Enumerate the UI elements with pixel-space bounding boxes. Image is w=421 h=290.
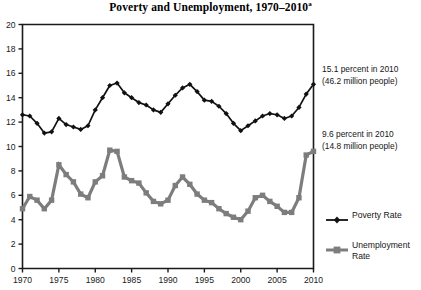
data-point-marker [274,204,279,209]
data-point-marker [224,211,229,216]
legend-label-poverty-rate: Poverty Rate [348,210,402,221]
chart-legend: Poverty Rate Unemployment Rate [326,210,421,278]
x-tick-label: 1990 [158,275,177,285]
data-point-marker [194,191,199,196]
series-unemployment-rate [20,147,316,222]
data-point-marker [289,210,294,215]
data-point-marker [253,195,258,200]
data-point-marker [20,206,25,211]
x-tick-label: 1970 [13,275,32,285]
legend-item-poverty-rate: Poverty Rate [326,210,421,223]
data-point-marker [107,147,112,152]
data-point-marker [187,182,192,187]
y-tick-label: 20 [6,20,16,30]
data-point-marker [129,178,134,183]
x-axis-ticks: 197019751980198519901995200020052010 [13,269,323,286]
data-point-marker [245,208,250,213]
data-point-marker [20,112,25,117]
y-tick-label: 14 [6,93,16,103]
data-point-marker [260,193,265,198]
data-point-marker [231,215,236,220]
data-point-marker [122,174,127,179]
plot-frame [23,25,314,269]
annotation-unemployment-rate: 9.6 percent in 2010 (14.8 million people… [322,129,397,152]
x-tick-label: 2000 [231,275,250,285]
data-point-marker [267,199,272,204]
data-point-marker [34,197,39,202]
y-tick-label: 6 [11,190,16,200]
data-point-marker [93,179,98,184]
y-tick-label: 10 [6,142,16,152]
data-point-marker [78,191,83,196]
y-tick-label: 8 [11,166,16,176]
data-point-marker [71,124,76,129]
annotation-poverty-rate: 15.1 percent in 2010 (46.2 million peopl… [322,64,398,87]
legend-marker-square-icon [326,241,348,253]
chart-figure: Poverty and Unemployment, 1970–2010a 024… [0,0,421,290]
data-point-marker [143,190,148,195]
data-series-layer [20,80,316,222]
data-point-marker [56,162,61,167]
annotation-poverty-line1: 15.1 percent in 2010 [322,64,398,76]
legend-marker-diamond-icon [326,211,348,223]
y-tick-label: 0 [11,264,16,274]
x-tick-label: 1975 [49,275,68,285]
data-point-marker [27,194,32,199]
data-point-marker [304,152,309,157]
data-point-marker [238,217,243,222]
annotation-poverty-line2: (46.2 million people) [322,76,398,88]
data-point-marker [209,200,214,205]
data-point-marker [136,180,141,185]
series-poverty-rate [20,80,316,135]
y-axis-ticks: 02468101214161820 [6,20,23,274]
y-tick-label: 2 [11,239,16,249]
data-point-marker [114,149,119,154]
data-point-marker [63,172,68,177]
data-point-marker [296,195,301,200]
y-tick-label: 12 [6,117,16,127]
data-point-marker [42,206,47,211]
data-point-marker [202,197,207,202]
data-point-marker [165,197,170,202]
data-point-marker [173,183,178,188]
y-tick-label: 16 [6,68,16,78]
data-point-marker [311,149,316,154]
data-point-marker [180,174,185,179]
chart-axes [23,25,314,269]
y-tick-label: 4 [11,215,16,225]
data-point-marker [282,210,287,215]
y-tick-label: 18 [6,44,16,54]
x-tick-label: 2005 [268,275,287,285]
data-point-marker [216,206,221,211]
data-point-marker [100,173,105,178]
data-point-marker [267,111,272,116]
x-tick-label: 2010 [304,275,323,285]
x-tick-label: 1985 [122,275,141,285]
legend-item-unemployment-rate: Unemployment Rate [326,240,421,261]
legend-label-unemployment-rate: Unemployment Rate [348,240,421,261]
x-tick-label: 1995 [195,275,214,285]
x-tick-label: 1980 [86,275,105,285]
data-point-marker [85,195,90,200]
annotation-unemployment-line1: 9.6 percent in 2010 [322,129,397,141]
annotation-unemployment-line2: (14.8 million people) [322,141,397,153]
data-point-marker [71,179,76,184]
data-point-marker [151,199,156,204]
data-point-marker [49,197,54,202]
data-point-marker [158,201,163,206]
series-line [23,150,314,220]
